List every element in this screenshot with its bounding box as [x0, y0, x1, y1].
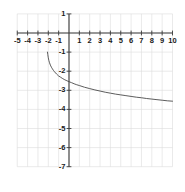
- y-tick-label: 1: [61, 10, 65, 18]
- y-tick-label: -1: [59, 48, 66, 56]
- data-curve: [47, 52, 172, 101]
- graph-figure: -5-4-3-2-112345678910 1-1-2-3-4-5-6-7: [0, 0, 185, 192]
- y-tick-label: -4: [59, 105, 66, 113]
- x-tick-label: 9: [160, 37, 164, 45]
- y-tick-label: -2: [59, 67, 66, 75]
- x-tick-label: -4: [24, 37, 31, 45]
- x-tick-label: 5: [119, 37, 123, 45]
- y-tick-label: -7: [59, 163, 66, 171]
- y-tick-label: -6: [59, 144, 66, 152]
- x-tick-label: 7: [139, 37, 143, 45]
- x-tick-label: -1: [55, 37, 62, 45]
- x-tick-label: 8: [150, 37, 154, 45]
- x-tick-label: 2: [88, 37, 92, 45]
- x-tick-label: -2: [45, 37, 52, 45]
- x-tick-label: -5: [14, 37, 21, 45]
- x-tick-label: 1: [77, 37, 81, 45]
- x-tick-label: 10: [168, 37, 176, 45]
- x-tick-label: 6: [129, 37, 133, 45]
- x-tick-label: 4: [108, 37, 112, 45]
- y-tick-label: -5: [59, 125, 66, 133]
- x-tick-label: 3: [98, 37, 102, 45]
- plot-area: [0, 0, 185, 192]
- x-tick-label: -3: [35, 37, 42, 45]
- y-tick-label: -3: [59, 86, 66, 94]
